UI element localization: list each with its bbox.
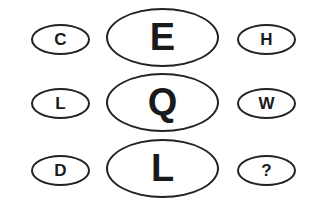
row1-right-oval: H xyxy=(237,24,296,55)
row3-center-letter: L xyxy=(151,147,174,190)
row2-center-oval: Q xyxy=(106,73,219,132)
row1-left-letter: C xyxy=(54,30,66,50)
row1-left-oval: C xyxy=(31,24,90,55)
row3-right-question-mark: ? xyxy=(261,161,271,181)
row2-left-letter: L xyxy=(55,94,65,114)
row2-right-oval: W xyxy=(237,88,296,119)
row3-left-letter: D xyxy=(54,161,66,181)
row2-right-letter: W xyxy=(258,94,274,114)
row3-left-oval: D xyxy=(31,155,90,186)
row1-right-letter: H xyxy=(260,30,272,50)
row3-right-oval-unknown: ? xyxy=(237,155,296,186)
row1-center-oval: E xyxy=(106,8,219,67)
row1-center-letter: E xyxy=(150,16,175,59)
row3-center-oval: L xyxy=(106,139,219,198)
row2-left-oval: L xyxy=(31,88,90,119)
row2-center-letter: Q xyxy=(148,81,178,124)
